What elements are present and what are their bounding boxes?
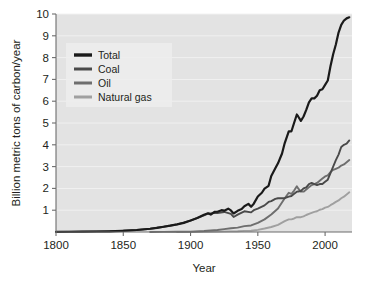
chart-figure: 12345678910 18001850190019502000 Year Bi… (0, 0, 370, 286)
legend-label-coal: Coal (98, 63, 120, 75)
y-tick-label-9: 9 (43, 30, 49, 42)
y-tick-label-2: 2 (43, 182, 49, 194)
x-tick-label-1950: 1950 (245, 239, 271, 251)
y-tick-label-7: 7 (43, 73, 49, 85)
legend-label-oil: Oil (98, 77, 111, 89)
x-tick-label-2000: 2000 (312, 239, 338, 251)
y-tick-label-8: 8 (43, 52, 49, 64)
y-tick-label-3: 3 (43, 161, 49, 173)
x-axis-title: Year (192, 262, 215, 274)
legend-label-natural-gas: Natural gas (98, 91, 152, 103)
y-tick-label-1: 1 (43, 204, 49, 216)
x-tick-label-1800: 1800 (43, 239, 69, 251)
x-tick-label-1900: 1900 (178, 239, 204, 251)
y-tick-label-4: 4 (43, 139, 50, 151)
legend: TotalCoalOilNatural gas (66, 43, 172, 107)
y-tick-label-5: 5 (43, 117, 49, 129)
y-axis-title: Billion metric tons of carbon/year (10, 39, 22, 206)
y-tick-label-6: 6 (43, 95, 49, 107)
y-tick-label-10: 10 (36, 8, 49, 20)
x-tick-label-1850: 1850 (110, 239, 136, 251)
legend-label-total: Total (98, 49, 120, 61)
emissions-line-chart: 12345678910 18001850190019502000 Year Bi… (0, 0, 370, 286)
